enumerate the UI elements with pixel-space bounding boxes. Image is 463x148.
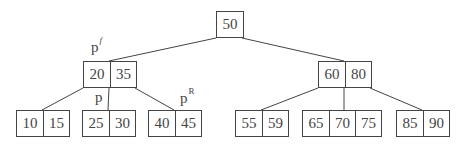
label-base: p (91, 39, 99, 55)
key: 90 (423, 111, 449, 136)
root-node: 50 (216, 11, 244, 38)
internal-node-right: 60 80 (318, 61, 372, 88)
leaf-node-1: 10 15 (16, 110, 70, 137)
leaf-node-4: 55 59 (235, 110, 289, 137)
edge-right-to-leaf4 (261, 88, 318, 110)
key: 30 (109, 111, 135, 136)
edge-left-to-leaf2 (108, 88, 109, 110)
label-current-pointer: p (95, 89, 103, 106)
edge-root-to-left (109, 38, 216, 61)
key: 20 (84, 62, 110, 87)
key: 10 (17, 111, 43, 136)
edge-left-to-leaf1 (42, 88, 83, 110)
leaf-node-5: 65 70 75 (302, 110, 382, 137)
label-right-sibling-pointer: pR (180, 89, 195, 107)
key: 75 (355, 111, 381, 136)
key: 15 (43, 111, 69, 136)
key: 40 (149, 111, 175, 136)
key: 59 (262, 111, 288, 136)
internal-node-left: 20 35 (83, 61, 137, 88)
edge-right-to-leaf6 (370, 88, 422, 110)
key: 60 (319, 62, 345, 87)
leaf-node-3: 40 45 (148, 110, 202, 137)
label-parent-pointer: pf (91, 38, 102, 56)
label-base: p (180, 90, 188, 106)
key: 55 (236, 111, 262, 136)
label-sup: R (189, 86, 195, 96)
key: 65 (303, 111, 329, 136)
label-sup: f (100, 35, 103, 45)
key: 45 (175, 111, 201, 136)
key: 25 (83, 111, 109, 136)
key: 50 (217, 12, 243, 37)
edge-left-to-leaf3 (135, 88, 174, 110)
key: 85 (397, 111, 423, 136)
label-base: p (95, 89, 103, 105)
edge-root-to-right (242, 38, 344, 61)
key: 80 (345, 62, 371, 87)
leaf-node-2: 25 30 (82, 110, 136, 137)
leaf-node-6: 85 90 (396, 110, 450, 137)
key: 35 (110, 62, 136, 87)
key: 70 (329, 111, 355, 136)
